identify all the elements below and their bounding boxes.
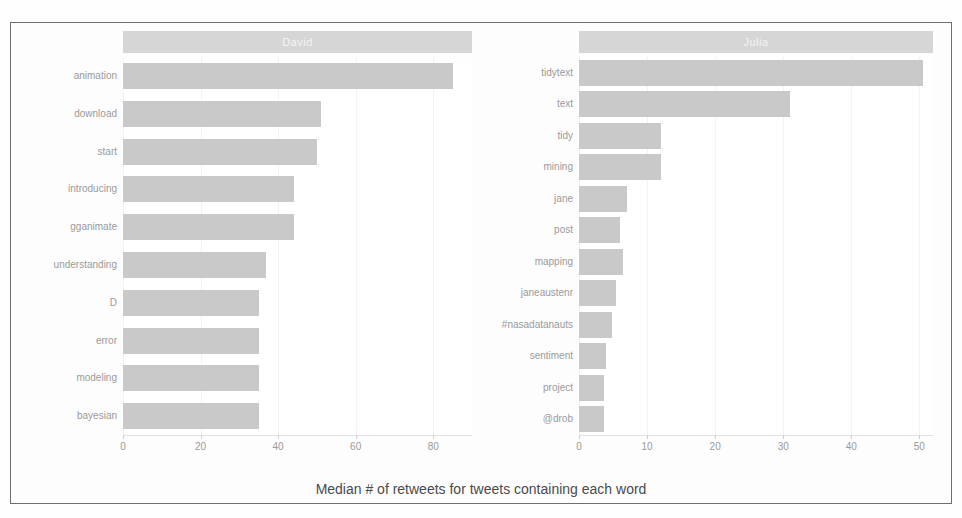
facet-panel-david: David animationdownloadstartintroducingg… [25,31,480,463]
x-axis-tick-mark [919,435,920,439]
y-axis-tick-label: mining [544,162,573,172]
x-axis-julia: 01020304050 [579,435,933,463]
y-axis-tick-label: gganimate [70,222,117,232]
y-axis-tick-label: jane [554,194,573,204]
y-axis-tick-label: tidytext [541,68,573,78]
y-axis-tick-label: understanding [54,260,117,270]
x-axis-tick-mark [579,435,580,439]
y-axis-tick-label: introducing [68,184,117,194]
facet-panels: David animationdownloadstartintroducingg… [11,23,951,503]
y-axis-tick-label: download [74,109,117,119]
x-axis-tick-mark [201,435,202,439]
x-axis-tick-mark [278,435,279,439]
y-axis-tick-label: D [110,298,117,308]
y-axis-tick-label: error [96,336,117,346]
x-axis-line-julia [579,435,933,436]
x-axis-tick-mark [715,435,716,439]
x-axis-tick-mark [123,435,124,439]
x-axis-tick-mark [356,435,357,439]
x-axis-david: 020406080 [123,435,472,463]
x-axis-tick-label: 20 [195,441,206,452]
y-axis-tick-label: animation [74,71,117,81]
y-axis-tick-label: post [554,225,573,235]
y-axis-tick-label: mapping [535,257,573,267]
x-axis-tick-label: 80 [428,441,439,452]
x-axis-tick-mark [783,435,784,439]
x-axis-tick-label: 0 [120,441,126,452]
y-axis-tick-label: modeling [76,373,117,383]
y-axis-tick-label: tidy [557,131,573,141]
y-axis-tick-label: bayesian [77,411,117,421]
x-axis-tick-label: 40 [846,441,857,452]
y-axis-tick-label: sentiment [530,351,573,361]
y-axis-tick-label: janeaustenr [521,288,573,298]
y-axis-labels-julia: tidytexttexttidyminingjanepostmappingjan… [487,57,939,435]
x-axis-tick-mark [647,435,648,439]
y-axis-tick-label: start [98,147,117,157]
y-axis-tick-label: #nasadatanauts [502,320,573,330]
x-axis-tick-label: 30 [778,441,789,452]
facet-strip-label-david: David [123,31,472,53]
x-axis-tick-label: 20 [710,441,721,452]
x-axis-tick-label: 50 [914,441,925,452]
x-axis-tick-label: 10 [642,441,653,452]
x-axis-tick-label: 60 [350,441,361,452]
chart-figure: David animationdownloadstartintroducingg… [10,22,952,504]
x-axis-tick-label: 40 [273,441,284,452]
y-axis-tick-label: project [543,383,573,393]
x-axis-tick-mark [433,435,434,439]
x-axis-tick-mark [851,435,852,439]
y-axis-labels-david: animationdownloadstartintroducinggganima… [25,57,480,435]
y-axis-tick-label: @drob [543,414,573,424]
x-axis-line-david [123,435,472,436]
y-axis-tick-label: text [557,99,573,109]
x-axis-tick-label: 0 [576,441,582,452]
x-axis-caption: Median # of retweets for tweets containi… [11,481,951,497]
facet-panel-julia: Julia tidytexttexttidyminingjanepostmapp… [487,31,939,463]
facet-strip-label-julia: Julia [579,31,933,53]
